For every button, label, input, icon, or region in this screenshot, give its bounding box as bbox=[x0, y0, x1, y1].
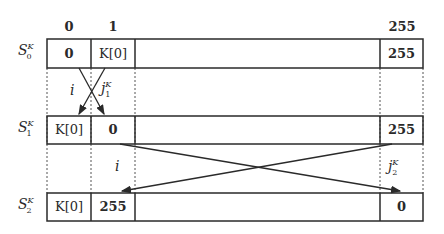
column-header-255: 255 bbox=[386, 19, 418, 34]
cell-r0-c255: 255 bbox=[380, 40, 423, 68]
cell-r1-c255: 255 bbox=[380, 116, 423, 144]
cell-r2-c255: 0 bbox=[380, 193, 423, 221]
column-header-1: 1 bbox=[103, 19, 123, 34]
annotation-i-2: i bbox=[115, 158, 119, 174]
annotation-i-1: i bbox=[70, 82, 74, 98]
cell-r2-c0: K[0] bbox=[47, 193, 91, 221]
cell-r0-c0: 0 bbox=[47, 40, 91, 68]
annotation-j1: jK1 bbox=[101, 80, 110, 99]
row-label-s0: SK0 bbox=[18, 42, 32, 61]
cell-r1-c1: 0 bbox=[91, 116, 135, 144]
cell-r1-c0: K[0] bbox=[47, 116, 91, 144]
annotation-j2: jK2 bbox=[388, 158, 397, 177]
cell-r2-c1: 255 bbox=[91, 193, 135, 221]
row-label-s2: SK2 bbox=[18, 196, 32, 215]
row-label-s1: SK1 bbox=[18, 119, 32, 138]
cell-r0-c1: K[0] bbox=[91, 40, 135, 68]
column-header-0: 0 bbox=[59, 19, 79, 34]
